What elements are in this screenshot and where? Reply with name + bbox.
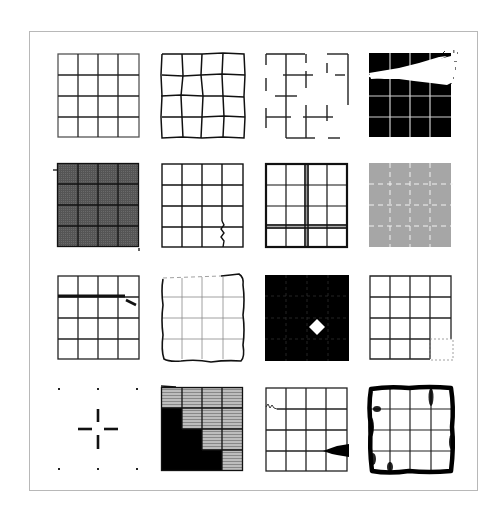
- panel-warped-grid: warped / jittered grid: [161, 53, 245, 139]
- grid-diagram: [161, 53, 245, 139]
- grid-diagram: [369, 53, 453, 139]
- grid-diagram: [161, 163, 245, 249]
- panel-gray-dashed-grid: gray fill with dashed white lines: [369, 163, 453, 249]
- panel-clean-grid: clean grid, faded top-left edges: [57, 53, 141, 139]
- grid-diagram: [265, 275, 349, 361]
- panel-dark-textured-grid: dark gray textured fill grid: [57, 163, 141, 249]
- panel-double-line-grid: grid with doubled shaded lines: [265, 163, 349, 249]
- grid-diagram: [57, 387, 141, 473]
- grid-diagram: [161, 387, 245, 473]
- panel-inverted-erased-grid: inverted grid with white streak erasure: [369, 53, 453, 139]
- crosshair-icon: [78, 409, 118, 449]
- panel-black-diamond: black fill with white diamond: [265, 275, 349, 361]
- panel-cracked-grid: grid with wavy crack line: [161, 163, 245, 249]
- grid-diagram: [369, 163, 453, 249]
- panel-smear-grid: grid with squiggle and ink smear: [265, 387, 349, 473]
- panel-broken-grid: broken grid with missing segments: [265, 53, 349, 139]
- grid-diagram: [369, 275, 453, 361]
- grid-diagram: [265, 53, 349, 139]
- panel-dots-crosshair: sparse dots and center crosshair: [57, 387, 141, 473]
- grid-diagram: [57, 53, 141, 139]
- panel-smudged-border-grid: grid with smudged ink border: [369, 387, 453, 473]
- grid-diagram: [265, 387, 349, 473]
- panel-staircase-fill-grid: staircase black fill over striped cells: [161, 387, 245, 473]
- panel-thick-stroke-grid: grid with thick misaligned stroke: [57, 275, 141, 361]
- panel-wobbly-border-grid: hand-drawn wobbly border, faint lines: [161, 275, 245, 361]
- panel-missing-corner-grid: grid with dashed missing corner cell: [369, 275, 453, 361]
- grid-diagram: [265, 163, 349, 249]
- grid-diagram: [161, 275, 245, 361]
- grid-diagram: [57, 163, 141, 249]
- grid-diagram: [369, 387, 453, 473]
- grid-diagram: [57, 275, 141, 361]
